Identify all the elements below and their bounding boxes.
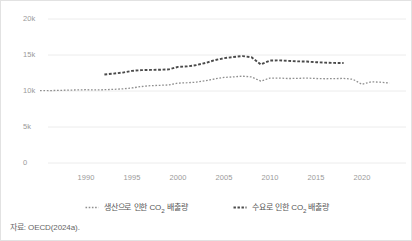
x-axis-tick-label: 2000 bbox=[158, 173, 198, 182]
chart-plot-area: 05k10k15k20k1990199520002005201020152020 bbox=[1, 1, 412, 197]
line-chart-svg bbox=[1, 1, 412, 197]
series-line-1 bbox=[104, 56, 343, 74]
y-axis-tick-label: 20k bbox=[23, 14, 35, 23]
chart-legend: 생산으로 인한 CO2 배출량 수요로 인한 CO2 배출량 bbox=[1, 197, 412, 217]
x-axis-tick-label: 2005 bbox=[204, 173, 244, 182]
x-axis-tick-label: 2010 bbox=[250, 173, 290, 182]
x-axis-tick-label: 2015 bbox=[296, 173, 336, 182]
y-axis-tick-label: 10k bbox=[23, 86, 35, 95]
legend-label-production: 생산으로 인한 CO2 배출량 bbox=[104, 201, 188, 214]
figure-container: 05k10k15k20k1990199520002005201020152020… bbox=[0, 0, 412, 241]
legend-item-production[interactable]: 생산으로 인한 CO2 배출량 bbox=[85, 201, 188, 214]
x-axis-tick-label: 2020 bbox=[342, 173, 382, 182]
y-axis-tick-label: 15k bbox=[23, 50, 35, 59]
legend-item-demand[interactable]: 수요로 인한 CO2 배출량 bbox=[233, 201, 329, 214]
y-axis-tick-label: 5k bbox=[23, 122, 31, 131]
y-axis-tick-label: 0 bbox=[23, 158, 27, 167]
legend-marker-demand-icon bbox=[233, 204, 247, 211]
legend-label-demand: 수요로 인한 CO2 배출량 bbox=[252, 201, 329, 214]
source-note: 자료: OECD(2024a). bbox=[10, 221, 80, 232]
x-axis-tick-label: 1990 bbox=[66, 173, 106, 182]
x-axis-tick-label: 1995 bbox=[112, 173, 152, 182]
series-line-0 bbox=[40, 76, 390, 90]
legend-marker-production-icon bbox=[85, 204, 99, 211]
